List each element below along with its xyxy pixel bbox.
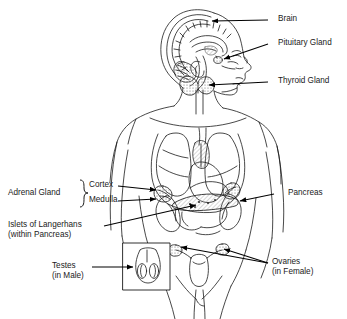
label-pituitary-gland: Pituitary Gland	[278, 38, 332, 48]
label-ovaries: Ovaries (in Female)	[272, 257, 313, 277]
label-islets-of-langerhans: Islets of Langerhans (within Pancreas)	[8, 220, 82, 240]
label-testes: Testes (in Male)	[52, 261, 84, 281]
adrenal-brace	[80, 180, 88, 207]
testes-line-1: Testes	[52, 261, 76, 270]
label-cortex: Cortex	[89, 180, 113, 190]
label-thyroid-gland: Thyroid Gland	[278, 76, 329, 86]
islets-line-2: (within Pancreas)	[8, 230, 71, 239]
leader-medulla	[118, 199, 156, 201]
label-adrenal-gland: Adrenal Gland	[8, 188, 60, 198]
islets-line-1: Islets of Langerhans	[8, 220, 82, 229]
label-medulla: Medulla	[89, 195, 118, 205]
leader-cortex	[118, 186, 156, 190]
leader-pituitary	[224, 44, 268, 59]
endocrine-diagram: Brain Pituitary Gland Thyroid Gland Panc…	[0, 0, 347, 319]
leader-brain	[212, 20, 268, 21]
testes-line-2: (in Male)	[52, 271, 84, 280]
leader-pancreas	[240, 194, 274, 201]
label-pancreas: Pancreas	[288, 188, 323, 198]
ovaries-line-1: Ovaries	[272, 257, 300, 266]
label-brain: Brain	[278, 14, 297, 24]
ovaries-line-2: (in Female)	[272, 267, 313, 276]
leader-islets	[104, 205, 196, 226]
